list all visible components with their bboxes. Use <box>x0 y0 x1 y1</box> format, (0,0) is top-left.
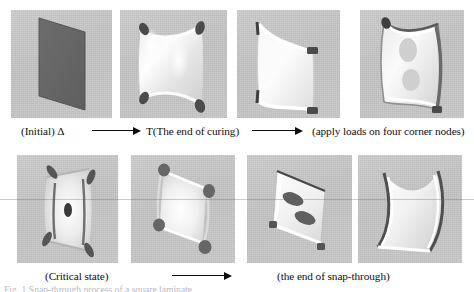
figure-caption: Fig. 1 Snap-through process of a square … <box>4 284 470 292</box>
caption-curing: T(The end of curing) <box>146 122 239 140</box>
arrow-head <box>295 127 303 135</box>
arrow-shaft <box>172 275 225 276</box>
post-critical-render <box>131 155 235 263</box>
critical-state-render <box>17 155 118 263</box>
panel-loaded-shell <box>360 10 464 118</box>
arrow-head <box>224 272 232 280</box>
arrow-curing-to-loads <box>252 126 304 136</box>
loaded-shell-render <box>237 10 340 118</box>
panel-end-of-curing <box>120 10 227 118</box>
panel-final-configuration <box>358 155 462 263</box>
panel-critical-state <box>17 155 118 263</box>
panel-initial <box>11 10 112 118</box>
panel-snap-through <box>247 155 352 263</box>
figure-container: (Initial) Δ T(The end of curing) (apply … <box>0 0 474 292</box>
final-shell-render <box>358 155 462 263</box>
caption-row-2: (Critical state) (the end of snap-throug… <box>0 267 474 285</box>
arrow-critical-to-snap <box>172 271 234 281</box>
panel-post-critical <box>131 155 235 263</box>
arrow-initial-to-curing <box>92 126 142 136</box>
arrow-shaft <box>252 130 296 131</box>
panel-loads-applied <box>237 10 340 118</box>
caption-row-1: (Initial) Δ T(The end of curing) (apply … <box>0 122 474 140</box>
initial-plate-render <box>11 10 112 118</box>
cured-shell-render <box>120 10 227 118</box>
caption-snap-through: (the end of snap-through) <box>277 267 390 285</box>
caption-initial: (Initial) Δ <box>21 122 65 140</box>
arrow-shaft <box>92 130 134 131</box>
caption-critical: (Critical state) <box>45 267 108 285</box>
snap-through-render <box>247 155 352 263</box>
arrow-head <box>133 127 141 135</box>
caption-loads: (apply loads on four corner nodes) <box>312 122 465 140</box>
deformed-shell-render <box>360 10 464 118</box>
